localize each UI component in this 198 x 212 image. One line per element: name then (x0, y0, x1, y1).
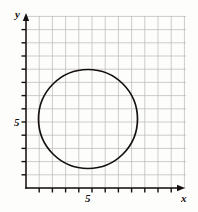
y-axis-label: y (15, 9, 20, 20)
y-axis-tick-label-5: 5 (14, 117, 20, 128)
coordinate-plane-figure: y x 5 5 (0, 0, 198, 212)
grid-horizontal-lines (26, 16, 186, 188)
y-axis-arrowhead (23, 13, 29, 21)
x-axis-arrowhead (177, 185, 185, 191)
x-axis-label: x (181, 193, 187, 204)
circle-shape (39, 70, 138, 169)
axis-lines (26, 18, 180, 188)
x-axis-tick-label-5: 5 (85, 193, 91, 204)
grid-vertical-lines (26, 16, 184, 188)
plot-canvas (0, 0, 198, 212)
